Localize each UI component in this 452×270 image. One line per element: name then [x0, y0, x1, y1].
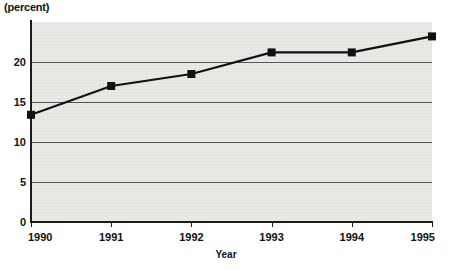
gridline: [31, 142, 432, 143]
x-axis-tick-label: 1991: [99, 231, 123, 243]
plot-area: [31, 22, 432, 222]
gridline: [31, 62, 432, 63]
x-axis-tick-label: 1990: [28, 231, 52, 243]
x-axis-tick-label: 1992: [179, 231, 203, 243]
x-axis-tick-label: 1993: [259, 231, 283, 243]
plot-background-texture: [31, 22, 432, 222]
x-axis-title: Year: [0, 249, 452, 260]
x-axis-line: [30, 221, 433, 223]
gridline: [31, 182, 432, 183]
x-axis-tick-mark: [352, 223, 353, 227]
y-axis-line: [30, 20, 32, 223]
line-chart-figure: (percent) 05101520 199019911992199319941…: [0, 0, 452, 270]
y-axis-tick-labels: 05101520: [0, 0, 26, 270]
y-axis-tick-label: 0: [20, 217, 26, 228]
x-axis-tick-mark: [191, 223, 192, 227]
x-axis-tick-mark: [432, 223, 433, 227]
y-axis-tick-label: 15: [14, 97, 26, 108]
x-axis-tick-mark: [272, 223, 273, 227]
x-axis-tick-mark: [31, 223, 32, 227]
y-axis-tick-label: 5: [20, 177, 26, 188]
y-axis-tick-label: 10: [14, 137, 26, 148]
y-axis-tick-label: 20: [14, 57, 26, 68]
x-axis-tick-label: 1995: [411, 231, 435, 243]
x-axis-tick-label: 1994: [340, 231, 364, 243]
gridline: [31, 102, 432, 103]
x-axis-tick-mark: [111, 223, 112, 227]
